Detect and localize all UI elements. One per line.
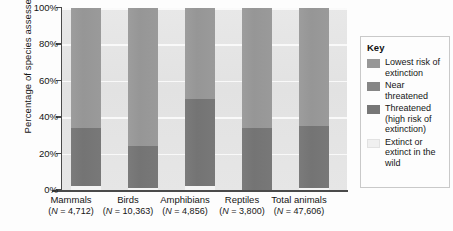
legend-swatch-lowest-risk <box>367 59 380 68</box>
legend-title: Key <box>367 42 445 53</box>
x-label-total-animals-name: Total animals <box>271 194 326 205</box>
bar-segment-birds-lowest-risk[interactable] <box>128 8 158 146</box>
bar-segment-mammals-threatened[interactable] <box>71 128 101 186</box>
y-tick-label-100: 100% <box>0 2 58 13</box>
legend-label-threatened: Threatened (high risk of extinction) <box>385 103 445 135</box>
y-tick-label-40: 40% <box>0 111 58 122</box>
legend-swatch-near-threatened <box>367 82 380 91</box>
bar-segment-amphibians-lowest-risk[interactable] <box>185 8 215 99</box>
legend-swatch-extinct <box>367 139 380 148</box>
y-tick-label-20: 20% <box>0 148 58 159</box>
x-label-total-animals-n: (N = 47,606) <box>253 206 345 218</box>
plot-area <box>62 8 347 190</box>
y-tick-label-60: 60% <box>0 75 58 86</box>
legend-label-near-threatened: Near threatened <box>385 80 445 101</box>
y-tick-label-80: 80% <box>0 38 58 49</box>
bar-segment-total-animals-lowest-risk[interactable] <box>299 8 329 126</box>
y-axis-line <box>61 7 62 191</box>
bar-segment-mammals-lowest-risk[interactable] <box>71 8 101 128</box>
legend-item-extinct[interactable]: Extinct or extinct in the wild <box>367 137 445 169</box>
x-label-birds-name: Birds <box>117 194 139 205</box>
legend-item-lowest-risk[interactable]: Lowest risk of extinction <box>367 57 445 78</box>
legend: Key Lowest risk of extinction Near threa… <box>360 36 450 188</box>
legend-label-lowest-risk: Lowest risk of extinction <box>385 57 445 78</box>
x-label-total-animals: Total animals (N = 47,606) <box>253 194 345 217</box>
bar-segment-amphibians-threatened[interactable] <box>185 99 215 186</box>
legend-item-threatened[interactable]: Threatened (high risk of extinction) <box>367 103 445 135</box>
x-axis-line <box>52 190 348 192</box>
bar-segment-reptiles-lowest-risk[interactable] <box>242 8 272 128</box>
bar-segment-total-animals-threatened[interactable] <box>299 126 329 188</box>
legend-item-near-threatened[interactable]: Near threatened <box>367 80 445 101</box>
bar-segment-reptiles-threatened[interactable] <box>242 128 272 190</box>
bar-segment-birds-threatened[interactable] <box>128 146 158 188</box>
legend-label-extinct: Extinct or extinct in the wild <box>385 137 445 169</box>
legend-swatch-threatened <box>367 105 380 114</box>
chart-figure: Percentage of species assessed 100% 80% … <box>0 0 453 231</box>
